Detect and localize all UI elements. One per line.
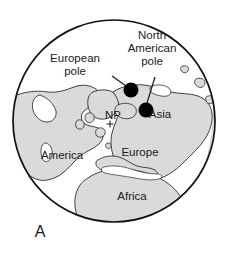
label-continent-asia: Asia	[149, 108, 172, 120]
label-north-pole: NP	[105, 109, 121, 121]
european-pole-marker	[124, 83, 139, 98]
label-european-pole-line2: pole	[64, 65, 86, 77]
globe-diagram: European pole North American pole NP Ame…	[0, 0, 228, 257]
label-north-american-pole-line3: pole	[141, 55, 163, 67]
figure-panel-a: European pole North American pole NP Ame…	[0, 0, 228, 257]
label-continent-america: America	[41, 149, 84, 161]
panel-label: A	[35, 223, 46, 240]
label-continent-africa: Africa	[117, 190, 147, 202]
label-north-american-pole-line1: North	[138, 29, 166, 41]
label-european-pole-line1: European	[50, 52, 100, 64]
label-north-american-pole-line2: American	[128, 42, 177, 54]
label-continent-europe: Europe	[121, 146, 158, 158]
